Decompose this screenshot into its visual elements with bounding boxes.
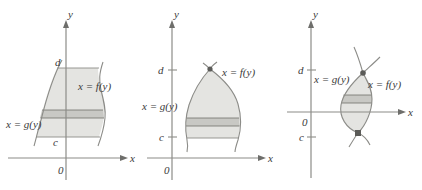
panel-left-canvas: y x 0 d c x = f(y) x = g(y) [0, 0, 141, 190]
y-axis-label: y [312, 8, 318, 20]
figure-container: y x 0 d c x = f(y) x = g(y) [0, 0, 422, 190]
panel-right-canvas: y x 0 d c x = g(y) x = f(y) [281, 0, 422, 190]
origin-label: 0 [164, 164, 170, 176]
panel-middle: y x 0 d c x = f(y) x = g(y) [141, 0, 281, 190]
curve-f-label: x = f(y) [77, 80, 111, 93]
x-axis-arrowhead [398, 109, 406, 115]
curve-g-label: x = g(y) [313, 73, 350, 86]
upper-bound-label-d: d [298, 64, 304, 76]
y-axis-label: y [173, 8, 179, 20]
y-axis-arrowhead [169, 20, 175, 28]
upper-bound-label-d: d [55, 56, 61, 68]
curve-f-label: x = f(y) [221, 66, 255, 79]
y-axis-label: y [67, 8, 73, 20]
representative-strip [40, 110, 104, 118]
panel-middle-canvas: y x 0 d c x = f(y) x = g(y) [141, 0, 281, 190]
representative-strip [342, 95, 373, 103]
curve-g-label: x = g(y) [5, 118, 42, 131]
curve-g-label: x = g(y) [141, 100, 178, 113]
x-axis-arrowhead [258, 155, 266, 161]
origin-label: 0 [58, 164, 64, 176]
y-axis-arrowhead [308, 20, 314, 28]
intersection-point-top [207, 66, 212, 71]
lower-bound-label-c: c [299, 131, 304, 143]
curve-f-label: x = f(y) [367, 78, 401, 91]
x-axis-label: x [267, 152, 273, 164]
origin-label: 0 [302, 116, 308, 128]
intersection-point-top [360, 70, 366, 76]
panel-right: y x 0 d c x = g(y) x = f(y) [281, 0, 422, 190]
intersection-point-bottom [355, 130, 361, 136]
representative-strip [186, 118, 240, 126]
x-axis-label: x [129, 152, 135, 164]
y-axis-arrowhead [63, 20, 69, 28]
region-between-curves [186, 69, 240, 138]
upper-bound-label-d: d [158, 64, 164, 76]
lower-bound-label-c: c [53, 136, 58, 148]
lower-bound-label-c: c [159, 131, 164, 143]
x-axis-label: x [407, 106, 413, 118]
x-axis-arrowhead [120, 155, 128, 161]
panel-left: y x 0 d c x = f(y) x = g(y) [0, 0, 141, 190]
